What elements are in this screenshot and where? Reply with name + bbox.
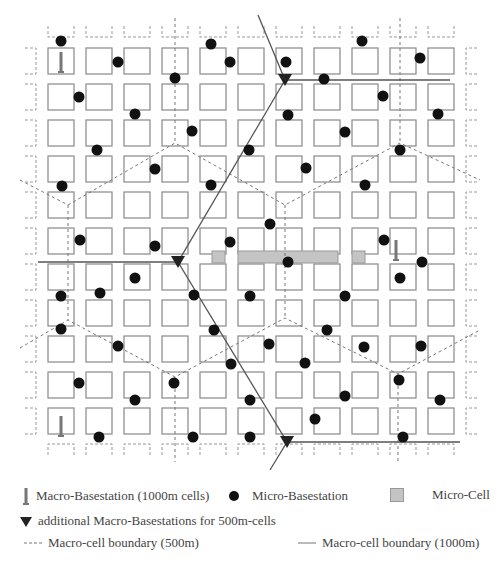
legend-boundary-1000: Macro-cell boundary (1000m) <box>298 535 479 551</box>
micro-basestation-dot <box>75 235 86 246</box>
city-block <box>428 156 454 182</box>
city-block <box>48 264 74 290</box>
tower-icon <box>22 486 30 506</box>
legend-label: additional Macro-Basestations for 500m-c… <box>38 513 276 529</box>
city-block <box>48 300 74 326</box>
city-block <box>238 120 264 146</box>
city-block <box>162 156 188 182</box>
micro-basestation-dot <box>395 273 406 284</box>
edge-block-bottom <box>238 444 264 455</box>
edge-block-right <box>466 300 477 326</box>
edge-block-left <box>25 156 36 182</box>
city-block <box>48 84 74 110</box>
legend-label: Macro-cell boundary (500m) <box>48 535 199 551</box>
micro-basestation-dot <box>56 36 67 47</box>
micro-basestation-dot <box>357 36 368 47</box>
legend-label: Macro-Basestation (1000m cells) <box>36 488 209 504</box>
city-block <box>86 228 112 254</box>
city-block <box>200 336 226 362</box>
micro-basestation-dot <box>398 432 409 443</box>
city-block <box>428 300 454 326</box>
cell-layout-diagram <box>0 0 501 475</box>
edge-block-top <box>276 26 302 37</box>
city-block <box>276 300 302 326</box>
city-block <box>314 48 340 74</box>
edge-block-bottom <box>48 444 74 455</box>
micro-basestation-dot <box>283 257 294 268</box>
city-block <box>124 336 150 362</box>
micro-basestation-dot <box>130 395 141 406</box>
city-block <box>48 336 74 362</box>
city-block <box>200 192 226 218</box>
city-block <box>48 120 74 146</box>
tower-base <box>58 435 64 437</box>
edge-block-right <box>466 336 477 362</box>
micro-basestation-dot <box>417 257 428 268</box>
micro-basestation-dot <box>225 237 236 248</box>
edge-block-left <box>25 84 36 110</box>
city-block <box>390 408 416 434</box>
micro-basestation-dot <box>394 375 405 386</box>
edge-block-right <box>466 264 477 290</box>
city-block <box>48 192 74 218</box>
edge-block-right <box>466 372 477 398</box>
edge-block-left <box>25 300 36 326</box>
city-block <box>238 156 264 182</box>
edge-block-bottom <box>352 444 378 455</box>
edge-block-left <box>25 408 36 434</box>
city-block <box>428 120 454 146</box>
edge-block-bottom <box>124 444 150 455</box>
city-block <box>200 48 226 74</box>
edge-block-top <box>86 26 112 37</box>
micro-basestation-dot <box>433 109 444 120</box>
edge-block-left <box>25 228 36 254</box>
edge-block-bottom <box>390 444 416 455</box>
micro-basestation-dot <box>113 341 124 352</box>
city-block <box>390 48 416 74</box>
edge-block-left <box>25 48 36 74</box>
edge-block-bottom <box>200 444 226 455</box>
micro-basestation-dot <box>150 241 161 252</box>
city-block <box>162 192 188 218</box>
micro-basestation-dot <box>187 126 198 137</box>
edge-block-bottom <box>428 444 454 455</box>
city-block <box>390 372 416 398</box>
micro-basestation-dot <box>244 145 255 156</box>
city-block <box>124 84 150 110</box>
micro-basestation-dot <box>395 145 406 156</box>
micro-basestation-dot <box>169 378 180 389</box>
city-block <box>276 192 302 218</box>
edge-block-left <box>25 336 36 362</box>
city-block <box>124 120 150 146</box>
city-block <box>390 228 416 254</box>
micro-basestation-dot <box>74 92 85 103</box>
city-block <box>162 228 188 254</box>
city-block <box>352 48 378 74</box>
tower-mast <box>60 52 63 72</box>
square-icon <box>390 488 404 502</box>
city-block <box>428 228 454 254</box>
edge-block-right <box>466 228 477 254</box>
micro-basestation-dot <box>319 74 330 85</box>
micro-basestation-dot <box>95 288 106 299</box>
micro-basestation-dot <box>92 145 103 156</box>
legend-additional-macro: additional Macro-Basestations for 500m-c… <box>20 513 276 529</box>
city-block <box>48 156 74 182</box>
legend-micro-cell: Micro-Cell <box>390 487 490 503</box>
city-block <box>124 300 150 326</box>
tower-base <box>58 71 64 73</box>
micro-basestation-dot <box>130 109 141 120</box>
city-block <box>162 300 188 326</box>
edge-block-top <box>352 26 378 37</box>
city-block <box>352 408 378 434</box>
micro-basestation-dot <box>130 273 141 284</box>
micro-basestation-dot <box>435 395 446 406</box>
edge-block-bottom <box>314 444 340 455</box>
micro-basestation-dot <box>283 110 294 121</box>
city-block <box>276 336 302 362</box>
city-block <box>124 192 150 218</box>
micro-basestation-dot <box>300 358 311 369</box>
city-block <box>238 264 264 290</box>
micro-basestation-dot <box>245 395 256 406</box>
legend-macro-basestation: Macro-Basestation (1000m cells) <box>22 486 209 506</box>
